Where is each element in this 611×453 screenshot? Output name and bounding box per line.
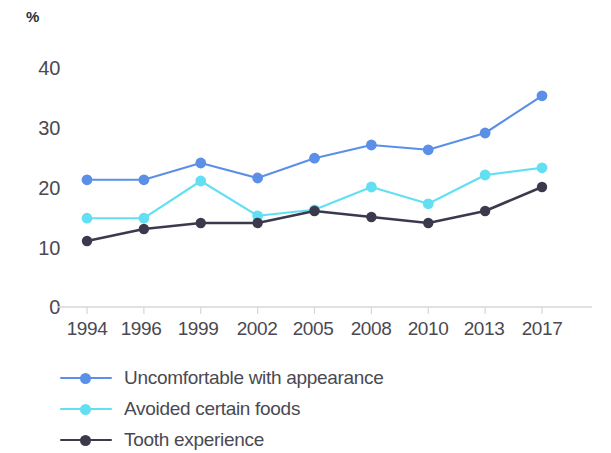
legend-label-3: Tooth experience [124, 429, 264, 451]
data-point-marker[interactable] [82, 213, 93, 224]
data-point-marker[interactable] [252, 173, 263, 184]
data-point-marker[interactable] [309, 153, 320, 164]
chart-legend: Uncomfortable with appearance Avoided ce… [60, 362, 600, 453]
x-axis-ticks [87, 307, 542, 314]
data-point-marker[interactable] [480, 170, 491, 181]
series-layer [82, 90, 548, 246]
data-point-marker[interactable] [423, 218, 433, 228]
data-point-marker[interactable] [423, 198, 434, 209]
data-point-marker[interactable] [138, 174, 149, 185]
data-point-marker[interactable] [82, 174, 93, 185]
data-point-marker[interactable] [82, 236, 92, 246]
data-point-marker[interactable] [480, 128, 491, 139]
legend-label-1: Uncomfortable with appearance [124, 367, 384, 389]
data-point-marker[interactable] [309, 206, 319, 216]
legend-label-2: Avoided certain foods [124, 398, 300, 420]
data-point-marker[interactable] [366, 212, 376, 222]
legend-swatch-icon-3 [60, 433, 112, 447]
legend-swatch-icon-1 [60, 371, 112, 385]
data-point-marker[interactable] [537, 162, 548, 173]
data-point-marker[interactable] [537, 90, 548, 101]
legend-item-avoided-certain-foods[interactable]: Avoided certain foods [60, 393, 600, 424]
legend-item-tooth-experience[interactable]: Tooth experience [60, 424, 600, 453]
data-point-marker[interactable] [195, 176, 206, 187]
data-point-marker[interactable] [537, 182, 547, 192]
data-point-marker[interactable] [195, 158, 206, 169]
line-chart: % 40 30 20 10 0 1994 1996 1999 2002 2005… [0, 0, 611, 453]
data-point-marker[interactable] [423, 144, 434, 155]
legend-swatch-icon-2 [60, 402, 112, 416]
data-point-marker[interactable] [252, 218, 262, 228]
data-point-marker[interactable] [196, 218, 206, 228]
data-point-marker[interactable] [366, 140, 377, 151]
series-line [87, 96, 542, 180]
data-point-marker[interactable] [366, 182, 377, 193]
data-point-marker[interactable] [139, 224, 149, 234]
data-point-marker[interactable] [138, 213, 149, 224]
data-series [82, 90, 548, 185]
data-point-marker[interactable] [480, 206, 490, 216]
legend-item-uncomfortable-with-appearance[interactable]: Uncomfortable with appearance [60, 362, 600, 393]
